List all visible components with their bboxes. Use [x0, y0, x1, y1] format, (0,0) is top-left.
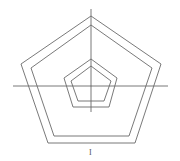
- figure-label: I: [89, 148, 92, 157]
- diagram-canvas: [0, 0, 180, 161]
- outer-pentagon-inner: [31, 25, 152, 136]
